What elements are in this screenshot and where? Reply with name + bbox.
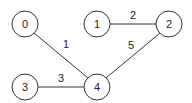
edge-weight-0-4: 1 <box>63 38 69 50</box>
node-label-0: 0 <box>22 18 28 30</box>
node-1: 1 <box>84 11 110 37</box>
node-2: 2 <box>156 11 182 37</box>
node-label-3: 3 <box>22 81 28 93</box>
edge-weight-2-4: 5 <box>128 39 134 51</box>
node-0: 0 <box>12 11 38 37</box>
node-4: 4 <box>84 74 110 100</box>
node-label-1: 1 <box>94 18 100 30</box>
node-3: 3 <box>12 74 38 100</box>
node-label-4: 4 <box>94 81 100 93</box>
nodes: 0 1 2 3 4 <box>12 11 182 100</box>
edge-weight-3-4: 3 <box>58 72 64 84</box>
node-label-2: 2 <box>166 18 172 30</box>
edge-weight-1-2: 2 <box>130 9 136 21</box>
weighted-graph-diagram: 1 2 5 3 0 1 2 3 4 <box>0 0 192 103</box>
